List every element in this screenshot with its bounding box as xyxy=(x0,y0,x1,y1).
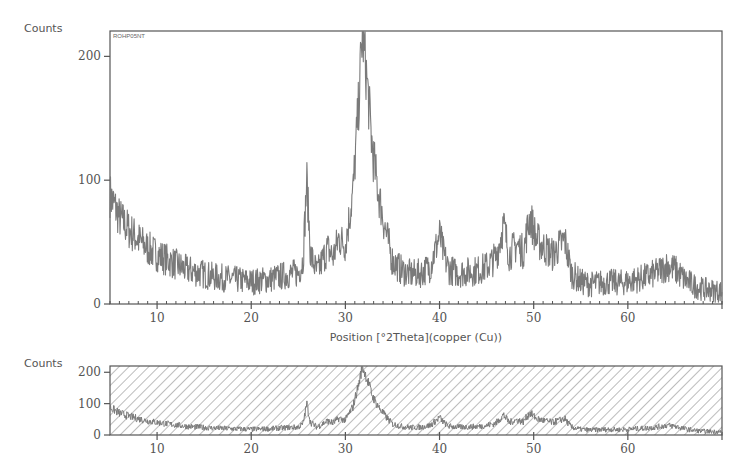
x-tick-label: 30 xyxy=(338,311,353,325)
overview-y-axis-label: Counts xyxy=(24,357,63,370)
xrd-chart-svg: Counts ROHP05NT 0100200 102030405060 Pos… xyxy=(0,0,748,473)
sample-tag: ROHP05NT xyxy=(113,33,145,39)
x-tick-label: 10 xyxy=(149,442,164,456)
x-tick-label: 40 xyxy=(432,311,447,325)
y-tick-label: 100 xyxy=(78,173,101,187)
x-tick-label: 20 xyxy=(244,311,259,325)
overview-y-axis-ticks: 0100200 xyxy=(78,365,110,442)
x-tick-label: 10 xyxy=(149,311,164,325)
diffraction-trace xyxy=(110,32,722,303)
y-tick-label: 0 xyxy=(93,297,101,311)
y-tick-label: 100 xyxy=(78,397,101,411)
x-axis-label: Position [°2Theta](copper (Cu)) xyxy=(330,331,502,344)
overview-panel: Counts 0100200 102030405060 xyxy=(24,357,722,456)
x-tick-label: 50 xyxy=(526,311,541,325)
overview-x-axis-ticks: 102030405060 xyxy=(149,432,722,456)
x-tick-label: 20 xyxy=(244,442,259,456)
y-axis-ticks: 0100200 xyxy=(78,49,110,311)
y-tick-label: 200 xyxy=(78,365,101,379)
y-tick-label: 200 xyxy=(78,49,101,63)
x-tick-label: 30 xyxy=(338,442,353,456)
xrd-figure: Counts ROHP05NT 0100200 102030405060 Pos… xyxy=(0,0,748,473)
x-tick-label: 60 xyxy=(620,442,635,456)
y-axis-label: Counts xyxy=(24,22,63,35)
x-tick-label: 60 xyxy=(620,311,635,325)
overview-hatched-frame[interactable] xyxy=(110,366,722,435)
x-tick-label: 40 xyxy=(432,442,447,456)
x-tick-label: 50 xyxy=(526,442,541,456)
xrd-line xyxy=(110,32,722,303)
main-diffractogram-panel: Counts ROHP05NT 0100200 102030405060 Pos… xyxy=(24,22,722,344)
y-tick-label: 0 xyxy=(93,428,101,442)
